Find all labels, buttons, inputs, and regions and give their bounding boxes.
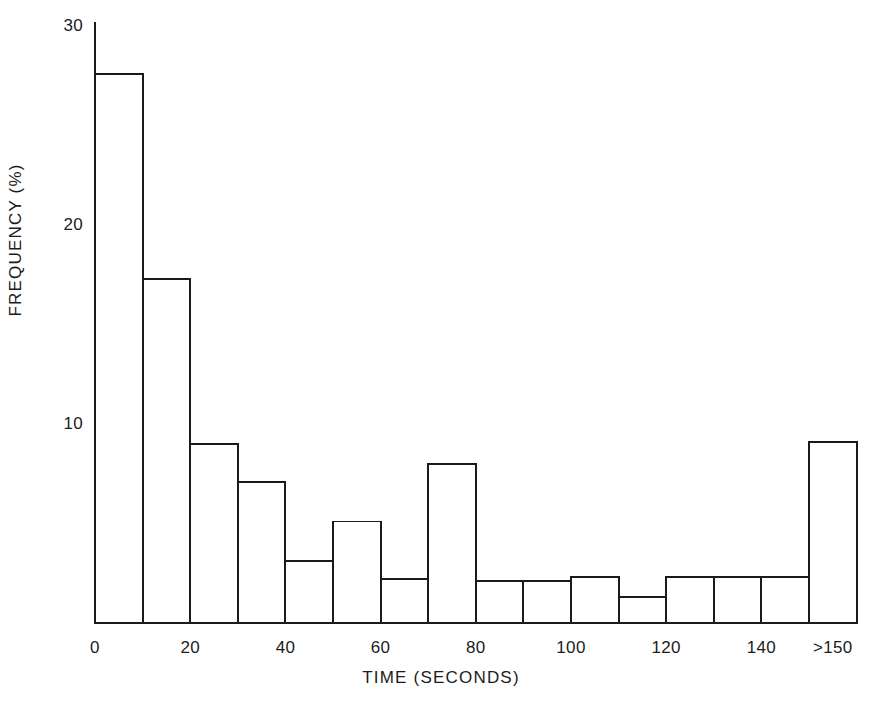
histogram-figure: 302010 020406080100120140>150 TIME (SECO…	[0, 0, 882, 702]
histogram-bar	[571, 577, 619, 623]
histogram-bar	[238, 482, 286, 623]
x-tick-label: 140	[747, 638, 776, 658]
histogram-bar	[285, 561, 333, 623]
histogram-bar	[666, 577, 714, 623]
x-tick-label: 40	[276, 638, 296, 658]
x-tick-label: >150	[813, 638, 853, 658]
histogram-plot	[0, 0, 882, 702]
x-tick-label: 120	[652, 638, 681, 658]
histogram-bar	[761, 577, 809, 623]
x-tick-label: 0	[90, 638, 100, 658]
x-tick-label: 20	[180, 638, 200, 658]
x-axis-title: TIME (SECONDS)	[0, 668, 882, 688]
x-tick-label: 80	[466, 638, 486, 658]
histogram-bar	[523, 581, 571, 623]
bars-group	[95, 74, 857, 623]
histogram-bar	[190, 444, 238, 623]
histogram-bar	[428, 464, 476, 623]
x-tick-label: 60	[371, 638, 391, 658]
histogram-bar	[143, 279, 191, 623]
histogram-bar	[476, 581, 524, 623]
histogram-bar	[95, 74, 143, 623]
histogram-bar	[714, 577, 762, 623]
histogram-bar	[381, 579, 429, 623]
y-axis-title: FREQUENCY (%)	[6, 20, 34, 460]
histogram-bar	[333, 522, 381, 623]
histogram-bar	[619, 597, 667, 623]
histogram-bar	[809, 442, 857, 623]
x-tick-label: 100	[556, 638, 585, 658]
